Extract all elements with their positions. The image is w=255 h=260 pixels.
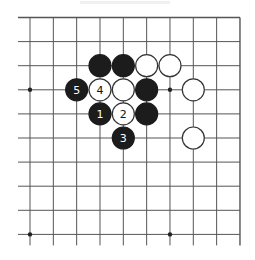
white-stone-4: 4 xyxy=(89,79,111,101)
star-point xyxy=(28,88,32,92)
stones: 54123 xyxy=(66,55,205,149)
go-board: 54123 xyxy=(0,0,255,260)
white-stone xyxy=(182,79,204,101)
stone-disc xyxy=(159,55,181,77)
black-stone xyxy=(136,103,158,125)
move-number: 4 xyxy=(96,84,103,97)
black-stone-1: 1 xyxy=(89,103,111,125)
move-number: 5 xyxy=(73,84,80,97)
move-number: 3 xyxy=(120,132,127,145)
white-stone xyxy=(112,79,134,101)
black-stone-5: 5 xyxy=(66,79,88,101)
stone-disc xyxy=(136,103,158,125)
stone-disc xyxy=(112,55,134,77)
black-stone xyxy=(89,55,111,77)
star-point xyxy=(168,232,172,236)
black-stone xyxy=(112,55,134,77)
stone-disc xyxy=(112,79,134,101)
black-stone-3: 3 xyxy=(112,127,134,149)
stone-disc xyxy=(89,55,111,77)
white-stone xyxy=(182,127,204,149)
move-number: 1 xyxy=(96,108,103,121)
stone-disc xyxy=(182,79,204,101)
stone-disc xyxy=(136,55,158,77)
white-stone xyxy=(159,55,181,77)
star-point xyxy=(168,88,172,92)
black-stone xyxy=(136,79,158,101)
white-stone-2: 2 xyxy=(112,103,134,125)
star-point xyxy=(28,232,32,236)
stone-disc xyxy=(182,127,204,149)
stone-disc xyxy=(136,79,158,101)
move-number: 2 xyxy=(120,108,127,121)
white-stone xyxy=(136,55,158,77)
